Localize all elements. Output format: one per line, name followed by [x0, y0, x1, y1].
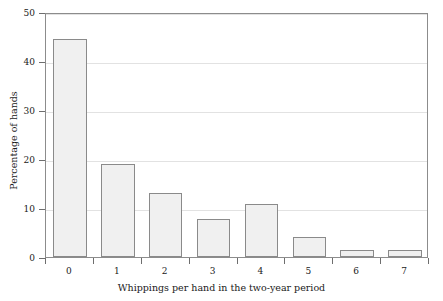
x-tick-label: 4 [258, 266, 264, 276]
x-tick-mark [332, 258, 333, 264]
bar [388, 250, 422, 257]
y-tick-label: 30 [24, 106, 35, 116]
x-tick-mark [428, 258, 429, 264]
x-tick-label: 2 [162, 266, 168, 276]
x-tick-mark [237, 258, 238, 264]
x-tick-label: 5 [305, 266, 311, 276]
y-tick-mark [39, 209, 45, 210]
x-tick-label: 3 [210, 266, 216, 276]
x-tick-mark [45, 258, 46, 264]
bar [245, 204, 279, 257]
y-tick-mark [39, 111, 45, 112]
x-tick-mark [93, 258, 94, 264]
bar-chart: 01020304050 Percentage of hands 01234567… [0, 0, 443, 301]
gridline [46, 112, 427, 113]
y-axis-title: Percentage of hands [8, 66, 19, 216]
y-tick-label: 50 [24, 8, 35, 18]
x-tick-mark [141, 258, 142, 264]
x-tick-mark [189, 258, 190, 264]
plot-area [45, 13, 428, 258]
x-tick-mark [380, 258, 381, 264]
gridline [46, 161, 427, 162]
y-tick-mark [39, 62, 45, 63]
gridline [46, 63, 427, 64]
bar [197, 219, 231, 257]
y-tick-label: 20 [24, 155, 35, 165]
x-tick-label: 7 [401, 266, 407, 276]
x-tick-mark [284, 258, 285, 264]
y-tick-mark [39, 13, 45, 14]
bar [101, 164, 135, 257]
y-tick-label: 0 [29, 253, 35, 263]
x-tick-label: 6 [353, 266, 359, 276]
x-axis-title: Whippings per hand in the two-year perio… [0, 282, 443, 293]
y-tick-label: 10 [24, 204, 35, 214]
bar [149, 193, 183, 257]
bar [340, 250, 374, 257]
y-tick-label: 40 [24, 57, 35, 67]
y-tick-mark [39, 160, 45, 161]
x-tick-label: 0 [66, 266, 72, 276]
gridline [46, 14, 427, 15]
x-tick-label: 1 [114, 266, 120, 276]
bar [53, 39, 87, 257]
bar [293, 237, 327, 257]
